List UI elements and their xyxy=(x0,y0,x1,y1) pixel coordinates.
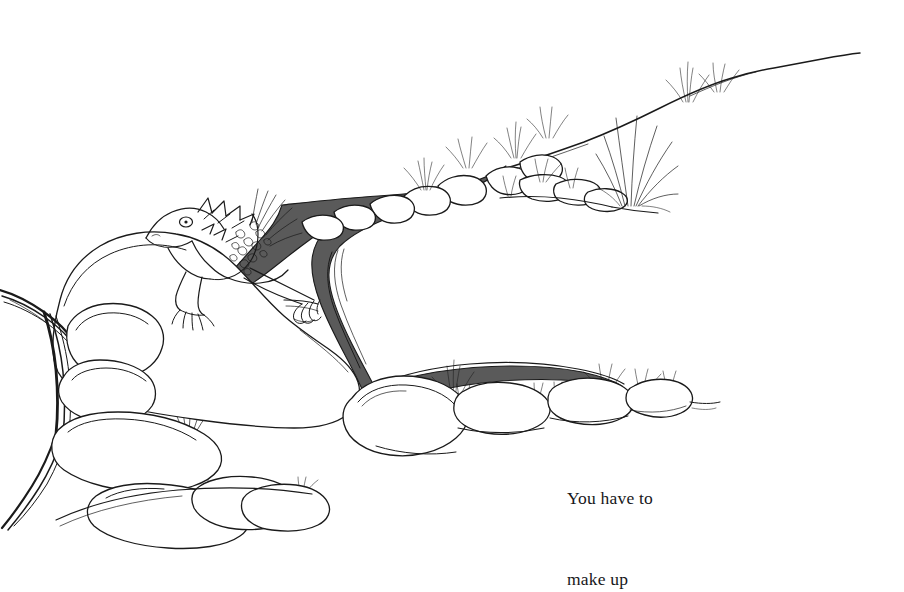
caption-line-2: make up xyxy=(567,566,867,592)
caption-line-1: You have to xyxy=(567,485,867,512)
illustration-page: .ink { fill:none; stroke:#1a1a1a; stroke… xyxy=(0,0,904,592)
caption-text-block: You have to make up your own mind. You'l… xyxy=(567,431,867,592)
